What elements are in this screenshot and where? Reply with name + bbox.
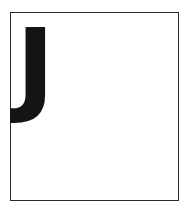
letter-glyph: J [16, 14, 55, 118]
letter-card: J [10, 12, 179, 201]
page-background: J [0, 0, 191, 218]
